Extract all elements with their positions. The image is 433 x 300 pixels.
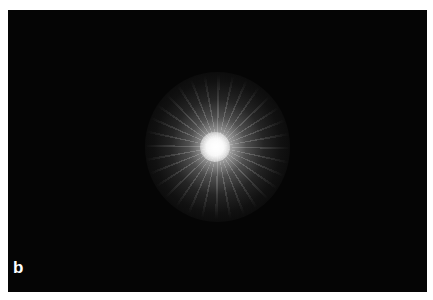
image-panel xyxy=(8,10,427,292)
bright-core xyxy=(200,132,230,162)
panel-label: b xyxy=(13,259,23,276)
